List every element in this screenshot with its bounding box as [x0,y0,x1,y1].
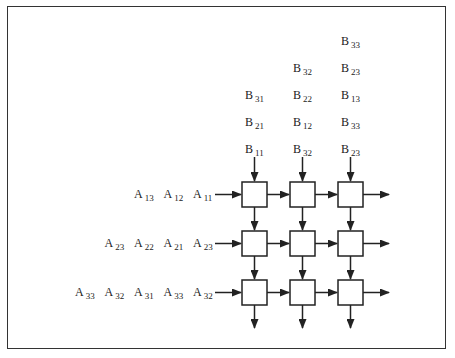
b-input-label: B33 [341,35,360,51]
a-input-label: A33 [75,286,95,302]
processing-element [290,182,315,207]
a-input-label: A23 [105,237,125,253]
b-input-label: B21 [245,116,264,132]
a-input-label: A13 [134,188,154,204]
processing-element [290,280,315,305]
b-input-label: B11 [245,143,264,159]
a-input-label: A11 [193,188,212,204]
b-input-label: B32 [293,143,312,159]
a-input-label: A23 [193,237,213,253]
processing-element [290,231,315,256]
processing-element [242,231,267,256]
a-input-label: A33 [164,286,184,302]
b-input-label: B12 [293,116,312,132]
b-input-label: B23 [341,62,360,78]
a-input-label: A21 [164,237,184,253]
b-input-label: B23 [341,143,360,159]
a-input-label: A32 [193,286,213,302]
a-input-label: A32 [105,286,125,302]
a-input-label: A12 [164,188,184,204]
processing-element [242,182,267,207]
a-input-label: A22 [134,237,154,253]
b-input-label: B33 [341,116,360,132]
processing-element [338,231,363,256]
a-input-label: A31 [134,286,154,302]
b-input-label: B31 [245,89,264,105]
processing-element [242,280,267,305]
processing-element [338,280,363,305]
b-input-label: B13 [341,89,360,105]
b-input-label: B32 [293,62,312,78]
processing-element-grid [0,0,455,358]
b-input-label: B22 [293,89,312,105]
processing-element [338,182,363,207]
